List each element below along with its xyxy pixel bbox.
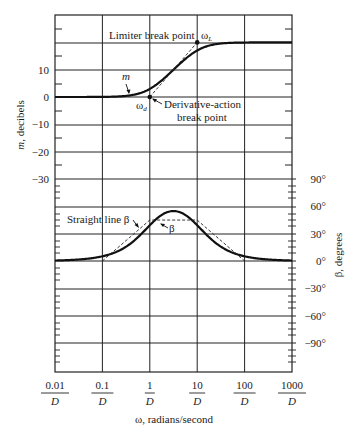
x-tick-denominator: D — [145, 395, 154, 407]
straight-line-beta-label: Straight line β — [67, 213, 130, 225]
right-tick-label: 30° — [311, 228, 326, 240]
limiter-break-point-label: Limiter break point — [109, 29, 195, 41]
x-tick-label: 1000D — [278, 379, 306, 407]
x-tick-label: 10D — [189, 379, 205, 407]
omega-d-label: ωd — [136, 99, 147, 113]
x-tick-denominator: D — [192, 395, 201, 407]
left-tick-label: 10 — [38, 64, 50, 76]
right-tick-label: −90° — [304, 337, 326, 349]
bode-plot: 100−10−20−3090°60°30°0°−30°−60°−90°0.01D… — [0, 0, 357, 434]
x-tick-denominator: D — [97, 395, 106, 407]
left-tick-label: −10 — [32, 118, 50, 130]
x-tick-denominator: D — [287, 395, 296, 407]
x-tick-label: 100D — [234, 379, 256, 407]
right-tick-label: 0° — [316, 255, 326, 267]
x-tick-denominator: D — [240, 395, 249, 407]
derivative-action-label: Derivative-action — [164, 98, 241, 110]
annotations: Limiter break pointωLmωdDerivative-actio… — [67, 29, 241, 234]
x-tick-numerator: 10 — [192, 379, 204, 391]
right-tick-label: 60° — [311, 200, 326, 212]
beta-curve-label: β — [169, 222, 175, 234]
x-tick-numerator: 1000 — [281, 379, 304, 391]
x-tick-label: 1D — [145, 379, 155, 407]
x-tick-label: 0.01D — [41, 379, 69, 407]
m-curve-label: m — [122, 70, 130, 82]
right-tick-label: −60° — [304, 310, 326, 322]
x-tick-label: 0.1D — [91, 379, 113, 407]
left-tick-label: −30 — [32, 173, 50, 185]
break-point-label: break point — [177, 111, 227, 123]
right-axis-title: β, degrees — [332, 233, 344, 278]
x-tick-numerator: 1 — [147, 379, 153, 391]
left-tick-label: −20 — [32, 146, 50, 158]
right-tick-label: 90° — [311, 173, 326, 185]
axis-labels: m, decibelsβ, degreesω, radians/second — [14, 100, 344, 425]
x-tick-numerator: 100 — [236, 379, 253, 391]
limiter-break-point-dot — [195, 40, 200, 45]
x-tick-denominator: D — [50, 395, 59, 407]
x-axis-title: ω, radians/second — [135, 413, 214, 425]
x-tick-numerator: 0.01 — [45, 379, 64, 391]
left-tick-label: 0 — [44, 91, 50, 103]
arrow-head-icon — [152, 99, 157, 103]
arrow-head-icon — [127, 90, 131, 95]
derivative-break-point-dot — [148, 95, 153, 100]
right-tick-label: −30° — [304, 282, 326, 294]
omega-L-label: ωL — [201, 29, 212, 43]
left-axis-title: m, decibels — [14, 100, 26, 150]
x-tick-numerator: 0.1 — [96, 379, 110, 391]
arrow-head-icon — [160, 224, 165, 228]
